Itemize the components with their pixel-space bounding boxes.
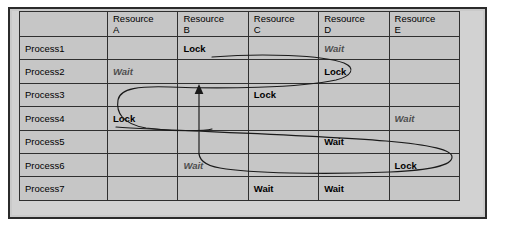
table-row: Process5 Wait [20, 130, 460, 153]
cell-p2-re [389, 60, 459, 83]
table-row: Process4 Lock Wait [20, 107, 460, 130]
process-label: Process4 [20, 107, 108, 130]
cell-p7-re [389, 177, 459, 200]
process-label: Process3 [20, 83, 108, 106]
deadlock-table-figure: Resource A Resource B Resource C Resourc… [0, 0, 507, 231]
cell-p5-rb [178, 130, 248, 153]
cell-p5-ra [108, 130, 178, 153]
cell-p3-ra [108, 83, 178, 106]
column-header-resource-b: Resource B [178, 12, 248, 37]
cell-p1-re [389, 37, 459, 60]
cell-p6-rc [248, 153, 318, 176]
table-row: Process2 Wait Lock [20, 60, 460, 83]
column-header-letter: A [113, 24, 172, 35]
cell-p5-rc [248, 130, 318, 153]
cell-p5-re [389, 130, 459, 153]
process-label: Process2 [20, 60, 108, 83]
cell-value: Lock [395, 160, 417, 171]
cell-p7-rc: Wait [248, 177, 318, 200]
cell-p3-re [389, 83, 459, 106]
cell-p4-rb [178, 107, 248, 130]
table-row: Process6 Wait Lock [20, 153, 460, 176]
resource-allocation-table: Resource A Resource B Resource C Resourc… [19, 11, 460, 201]
process-label: Process6 [20, 153, 108, 176]
cell-value: Wait [324, 183, 344, 194]
process-label: Process7 [20, 177, 108, 200]
table-row: Process3 Lock [20, 83, 460, 106]
column-header-name: Resource [324, 13, 383, 24]
cell-p1-rd: Wait [319, 37, 389, 60]
column-header-resource-e: Resource E [389, 12, 459, 37]
cell-p5-rd: Wait [319, 130, 389, 153]
cell-p1-ra [108, 37, 178, 60]
cell-value: Wait [395, 113, 415, 124]
cell-p7-rb [178, 177, 248, 200]
cell-p7-rd: Wait [319, 177, 389, 200]
cell-p3-rc: Lock [248, 83, 318, 106]
cell-p4-rc [248, 107, 318, 130]
cell-p4-ra: Lock [108, 107, 178, 130]
cell-value: Lock [324, 66, 346, 77]
column-header-name: Resource [183, 13, 242, 24]
table-body: Process1 Lock Wait Process2 Wait Lock [20, 37, 460, 201]
cell-p7-ra [108, 177, 178, 200]
cell-p3-rb [178, 83, 248, 106]
column-header-letter: D [324, 24, 383, 35]
process-label: Process1 [20, 37, 108, 60]
cell-p6-rb: Wait [178, 153, 248, 176]
column-header-resource-a: Resource A [108, 12, 178, 37]
cell-p2-rd: Lock [319, 60, 389, 83]
cell-p6-ra [108, 153, 178, 176]
cell-p4-rd [319, 107, 389, 130]
cell-p2-rc [248, 60, 318, 83]
cell-value: Lock [113, 113, 135, 124]
column-header-letter: B [183, 24, 242, 35]
cell-value: Wait [113, 66, 133, 77]
cell-value: Lock [254, 89, 276, 100]
column-header-name: Resource [254, 13, 313, 24]
column-header-resource-d: Resource D [319, 12, 389, 37]
cell-p1-rb: Lock [178, 37, 248, 60]
column-header-letter: C [254, 24, 313, 35]
cell-p2-ra: Wait [108, 60, 178, 83]
cell-p4-re: Wait [389, 107, 459, 130]
cell-value: Wait [324, 43, 344, 54]
table-corner-cell [20, 12, 108, 37]
resource-table-wrapper: Resource A Resource B Resource C Resourc… [19, 11, 459, 200]
column-header-letter: E [395, 24, 454, 35]
cell-p6-re: Lock [389, 153, 459, 176]
column-header-name: Resource [395, 13, 454, 24]
cell-value: Wait [254, 183, 274, 194]
table-row: Process7 Wait Wait [20, 177, 460, 200]
table-row: Process1 Lock Wait [20, 37, 460, 60]
column-header-name: Resource [113, 13, 172, 24]
cell-p3-rd [319, 83, 389, 106]
cell-value: Wait [324, 136, 344, 147]
column-header-resource-c: Resource C [248, 12, 318, 37]
cell-p1-rc [248, 37, 318, 60]
cell-value: Lock [183, 43, 205, 54]
cell-p2-rb [178, 60, 248, 83]
table-header-row: Resource A Resource B Resource C Resourc… [20, 12, 460, 37]
cell-p6-rd [319, 153, 389, 176]
cell-value: Wait [183, 160, 203, 171]
process-label: Process5 [20, 130, 108, 153]
